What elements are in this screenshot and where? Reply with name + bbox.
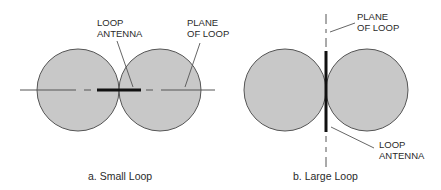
caption-small-loop: a. Small Loop [88,170,152,182]
antenna-label-line2: ANTENNA [97,28,143,39]
lobe-right [326,49,408,131]
caption-large-loop: b. Large Loop [293,170,358,182]
panel-large-loop: PLANE OF LOOP LOOP ANTENNA b. Large Loop [244,11,425,182]
radiation-pattern-diagram: LOOP ANTENNA PLANE OF LOOP a. Small Loop… [0,0,441,190]
plane-label-line1: PLANE [187,17,218,28]
panel-small-loop: LOOP ANTENNA PLANE OF LOOP a. Small Loop [20,17,229,182]
antenna-label-line2: ANTENNA [379,150,425,161]
antenna-label-line1: LOOP [97,17,123,28]
plane-label-line1: PLANE [357,11,388,22]
plane-label-line2: OF LOOP [187,28,229,39]
lobe-left [244,49,326,131]
antenna-label-line1: LOOP [379,139,405,150]
plane-leader [330,23,355,32]
plane-label-line2: OF LOOP [357,22,399,33]
